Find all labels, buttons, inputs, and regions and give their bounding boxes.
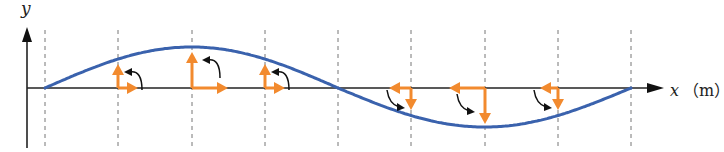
x-axis-unit: （m）	[683, 81, 724, 100]
velocity-arrow	[259, 64, 271, 88]
y-axis-label: y	[21, 0, 31, 18]
velocity-arrow	[552, 88, 564, 110]
velocity-arrow	[118, 82, 138, 94]
rotation-arrow-icon	[457, 94, 475, 115]
rotation-arrow-icon	[534, 90, 552, 111]
velocity-arrow	[540, 82, 558, 94]
rotation-arrow-icon	[202, 56, 220, 78]
velocity-arrow	[192, 82, 228, 94]
velocity-arrow	[112, 64, 124, 88]
x-axis-arrowhead-icon	[647, 83, 664, 93]
wave-diagram: y x（m）	[0, 0, 724, 152]
velocity-arrow	[186, 52, 198, 88]
x-axis-label: x（m）	[670, 77, 724, 101]
velocity-arrow	[449, 82, 485, 94]
velocity-arrow	[389, 82, 411, 94]
y-axis-arrowhead-icon	[22, 27, 32, 42]
velocity-arrow	[479, 88, 491, 124]
x-axis-variable: x	[670, 81, 679, 100]
velocity-arrow	[265, 82, 285, 94]
velocity-arrow	[405, 88, 417, 110]
